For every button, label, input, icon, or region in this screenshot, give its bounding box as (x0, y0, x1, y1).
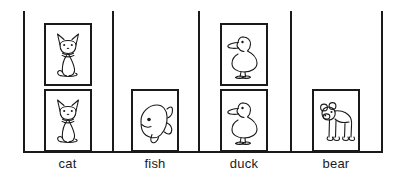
column-divider-1 (112, 11, 114, 152)
column-divider-right (381, 11, 383, 152)
fish-icon (134, 96, 176, 146)
category-label-fish: fish (112, 156, 198, 171)
duck-icon (223, 95, 265, 147)
category-label-bear: bear (290, 156, 382, 171)
cat-icon (48, 95, 88, 147)
category-label-duck: duck (198, 156, 290, 171)
column-cat (44, 23, 92, 152)
column-bear (312, 89, 360, 152)
pictograph-cell-fish-1 (131, 89, 179, 152)
column-fish (131, 89, 179, 152)
column-divider-left (23, 11, 25, 152)
pictograph-cell-duck-1 (220, 89, 268, 152)
column-duck (220, 23, 268, 152)
bear-icon (315, 97, 357, 145)
pictograph-chart: cat fish duck bear (0, 0, 404, 182)
category-label-cat: cat (23, 156, 112, 171)
cat-icon (48, 29, 88, 81)
column-divider-3 (290, 11, 292, 152)
duck-icon (223, 29, 265, 81)
pictograph-cell-bear-1 (312, 89, 360, 152)
column-divider-2 (198, 11, 200, 152)
pictograph-cell-cat-1 (44, 89, 92, 152)
pictograph-cell-duck-2 (220, 23, 268, 86)
pictograph-cell-cat-2 (44, 23, 92, 86)
